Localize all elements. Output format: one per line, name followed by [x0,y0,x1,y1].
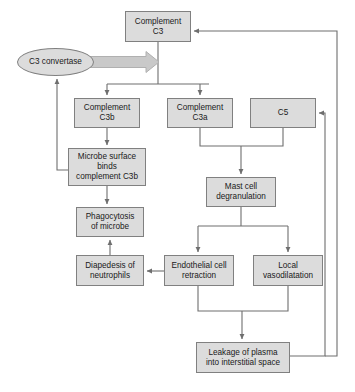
node-phagocytosis-of-microbe[interactable]: Phagocytosisof microbe [76,207,144,237]
edge-microbe-to-convertase [57,79,68,170]
node-endothelial-cell-retraction[interactable]: Endothelial cellretraction [164,255,234,286]
node-diapedesis-of-neutrophils[interactable]: Diapedesis ofneutrophils [76,255,144,286]
node-complement-c3[interactable]: ComplementC3 [125,11,191,42]
node-complement-c3a-label: ComplementC3a [177,103,223,123]
node-complement-c3b-label: ComplementC3b [84,103,130,123]
node-mast-cell-degranulation[interactable]: Mast celldegranulation [206,177,276,207]
edge-leakage-to-c5 [290,113,325,356]
node-c3-convertase[interactable]: C3 convertase [17,48,94,76]
node-local-vasodilatation[interactable]: Localvasodilatation [253,255,323,286]
edge-c3a-c5-merge [200,128,283,146]
node-complement-c3-label: ComplementC3 [135,17,181,37]
node-c5-label: C5 [278,108,288,118]
node-mast-cell-label: Mast celldegranulation [216,182,266,202]
block-arrow-convertase-to-c3 [88,52,159,73]
node-leakage-of-plasma[interactable]: Leakage of plasmainto interstitial space [196,342,290,373]
node-microbe-surface-label: Microbe surfacebindscomplement C3b [76,152,138,182]
complement-pathway-diagram: C3 convertase ComplementC3 ComplementC3b… [0,0,355,392]
node-c5[interactable]: C5 [250,98,316,128]
node-phagocytosis-label: Phagocytosisof microbe [86,212,135,232]
node-complement-c3b[interactable]: ComplementC3b [74,98,140,128]
node-leakage-label: Leakage of plasmainto interstitial space [206,348,280,368]
edge-leakage-merge-bar [198,286,288,311]
node-complement-c3a[interactable]: ComplementC3a [167,98,233,128]
node-endothelial-label: Endothelial cellretraction [171,261,226,281]
node-diapedesis-label: Diapedesis ofneutrophils [85,261,135,281]
node-c3-convertase-label: C3 convertase [29,57,82,67]
node-microbe-surface-binds-c3b[interactable]: Microbe surfacebindscomplement C3b [68,148,146,186]
node-vasodilatation-label: Localvasodilatation [263,261,313,281]
